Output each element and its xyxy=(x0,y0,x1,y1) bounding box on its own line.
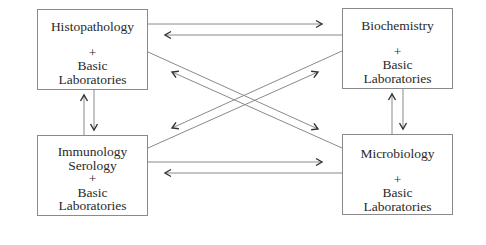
plus-sign: + xyxy=(343,173,452,187)
node-title: Microbiology xyxy=(343,147,452,161)
spacer xyxy=(343,161,452,173)
node-subtitle: Basic xyxy=(343,58,452,72)
plus-sign: + xyxy=(343,45,452,59)
node-subtitle: Basic xyxy=(343,186,452,200)
node-microbiology: Microbiology + Basic Laboratories xyxy=(342,134,453,215)
node-histopathology: Histopathology + Basic Laboratories xyxy=(37,9,148,90)
plus-sign: + xyxy=(38,172,147,186)
node-title: Immunology xyxy=(38,145,147,159)
spacer xyxy=(343,33,452,45)
node-title: Histopathology xyxy=(38,20,147,34)
node-biochemistry: Biochemistry + Basic Laboratories xyxy=(342,8,453,89)
node-subtitle: Basic xyxy=(38,59,147,73)
node-subtitle: Laboratories xyxy=(38,73,147,87)
edge-immunology-to-biochemistry xyxy=(148,72,318,148)
node-subtitle: Basic xyxy=(38,186,147,200)
node-subtitle: Laboratories xyxy=(343,72,452,86)
node-title: Serology xyxy=(38,159,147,173)
edge-biochemistry-to-immunology xyxy=(172,51,342,128)
node-title: Biochemistry xyxy=(343,19,452,33)
node-immunology-serology: Immunology Serology + Basic Laboratories xyxy=(37,135,148,216)
edge-microbiology-to-histopathology xyxy=(172,72,342,148)
node-subtitle: Laboratories xyxy=(343,200,452,214)
node-subtitle: Laboratories xyxy=(38,199,147,213)
edge-histopathology-to-microbiology xyxy=(148,52,318,129)
spacer xyxy=(38,34,147,46)
plus-sign: + xyxy=(38,46,147,60)
